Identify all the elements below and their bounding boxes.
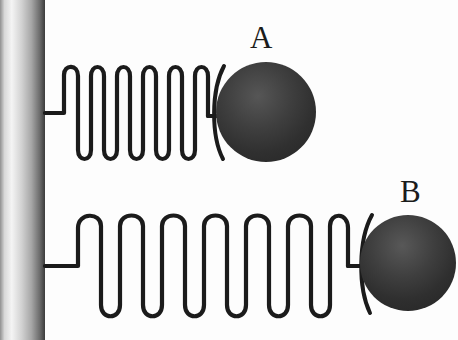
mass-b [360, 215, 456, 311]
spring-a-wall-lead [45, 75, 64, 113]
spring-b-coils [78, 216, 348, 317]
mass-b-label: B [400, 176, 421, 207]
wall [0, 0, 45, 340]
mass-spring-diagram [0, 0, 458, 340]
spring-b [45, 216, 372, 317]
spring-b-wall-lead [45, 228, 78, 266]
spring-a-coils [64, 67, 208, 159]
figure-canvas: A B [0, 0, 458, 340]
spring-a [45, 67, 228, 159]
mass-a [216, 62, 316, 162]
system-b [45, 215, 456, 316]
system-a [45, 62, 316, 162]
mass-a-label: A [250, 22, 272, 53]
